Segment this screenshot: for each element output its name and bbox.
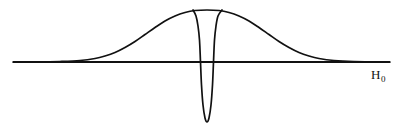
broad-lineshape-curve xyxy=(13,10,390,62)
figure-container: H0 xyxy=(0,0,403,127)
central-hole-curve xyxy=(193,10,222,122)
x-axis-label-subscript: 0 xyxy=(380,74,385,84)
lineshape-plot xyxy=(0,0,403,127)
x-axis-label: H0 xyxy=(371,68,385,84)
x-axis-label-symbol: H xyxy=(371,67,380,82)
